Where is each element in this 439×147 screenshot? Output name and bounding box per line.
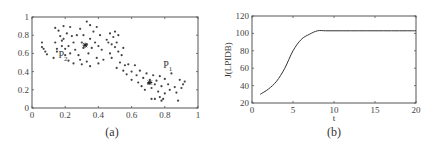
x-tick-label: 0 [30, 110, 35, 120]
data-point [155, 80, 157, 82]
x-tick-label: 0 [250, 105, 255, 115]
y-tick-label: 80 [240, 46, 250, 56]
data-point [89, 24, 91, 26]
figure: 00.20.40.60.81 00.20.40.60.81 P2P1 (a) 2… [0, 0, 439, 147]
data-point [117, 50, 119, 52]
data-point [81, 63, 83, 65]
data-point [124, 64, 126, 66]
y-tick-label: 0 [25, 103, 30, 113]
data-point [111, 43, 113, 45]
data-point [184, 81, 186, 83]
data-point [142, 77, 144, 79]
data-point [122, 47, 124, 49]
data-point [41, 41, 43, 43]
data-point [44, 50, 46, 52]
y-axis-ticks: 00.20.40.60.81 [18, 12, 198, 113]
data-point [179, 79, 181, 81]
data-point [89, 65, 91, 67]
data-point [59, 35, 61, 37]
data-point [109, 52, 111, 54]
data-point [64, 48, 66, 50]
data-point [160, 100, 162, 102]
x-tick-label: 0.6 [126, 110, 138, 120]
data-point [109, 32, 111, 34]
data-point [150, 87, 152, 89]
data-point [69, 52, 71, 54]
data-point [140, 85, 142, 87]
data-point [67, 45, 69, 47]
data-point [86, 60, 88, 62]
y-tick-label: 40 [240, 81, 250, 91]
data-point [144, 89, 146, 91]
data-point [69, 26, 71, 28]
data-point [122, 70, 124, 72]
data-point [139, 70, 141, 72]
data-point [131, 71, 133, 73]
data-point [41, 46, 43, 48]
data-point [66, 32, 68, 34]
data-point [145, 72, 147, 74]
cluster-labels: P2P1 [59, 49, 173, 73]
y-tick-label: 0.6 [18, 48, 30, 58]
data-point [54, 41, 56, 43]
cluster-label: P1 [163, 59, 173, 73]
data-point [164, 78, 166, 80]
data-point [89, 38, 91, 40]
data-point [77, 54, 79, 56]
y-tick-label: 0.8 [18, 30, 30, 40]
data-point [169, 89, 171, 91]
data-point [134, 64, 136, 66]
x-tick-label: 0.8 [159, 110, 171, 120]
data-point [164, 92, 166, 94]
data-point [162, 98, 164, 100]
data-point [167, 83, 169, 85]
y-tick-label: 120 [236, 11, 250, 21]
y-tick-label: 0.2 [18, 85, 29, 95]
y-tick-label: 1 [25, 12, 30, 22]
data-point [111, 57, 113, 59]
data-point [154, 98, 156, 100]
data-point [157, 91, 159, 93]
data-point [96, 26, 98, 28]
data-point [76, 34, 78, 36]
data-point [72, 62, 74, 64]
y-tick-label: 20 [240, 98, 250, 108]
data-point [101, 49, 103, 51]
data-point [92, 30, 94, 32]
data-point [182, 83, 184, 85]
data-point [54, 27, 56, 29]
line-series [260, 31, 416, 95]
data-point [150, 98, 152, 100]
data-point [159, 75, 161, 77]
data-point [114, 46, 116, 48]
data-point [97, 45, 99, 47]
data-point [97, 62, 99, 64]
data-point [57, 30, 59, 32]
data-point [159, 96, 161, 98]
data-point [160, 85, 162, 87]
data-point [112, 36, 114, 38]
data-point [81, 41, 83, 43]
data-point [61, 40, 63, 42]
data-point [114, 30, 116, 32]
caption-b: (b) [327, 125, 341, 139]
data-point [137, 81, 139, 83]
data-point [102, 59, 104, 61]
data-point [79, 59, 81, 61]
data-point [131, 79, 133, 81]
data-point [116, 41, 118, 43]
data-point [71, 35, 73, 37]
caption-a: (a) [105, 125, 118, 139]
data-point [94, 41, 96, 43]
data-point [121, 54, 123, 56]
data-point [135, 74, 137, 76]
data-point [72, 41, 74, 43]
x-tick-label: 0.2 [60, 110, 71, 120]
data-point [119, 61, 121, 63]
y-tick-label: 100 [236, 28, 250, 38]
cluster-centers [83, 43, 153, 85]
cluster-label: P2 [59, 49, 69, 63]
data-point [43, 48, 45, 50]
x-tick-label: 0.4 [93, 110, 105, 120]
data-point [74, 49, 76, 51]
